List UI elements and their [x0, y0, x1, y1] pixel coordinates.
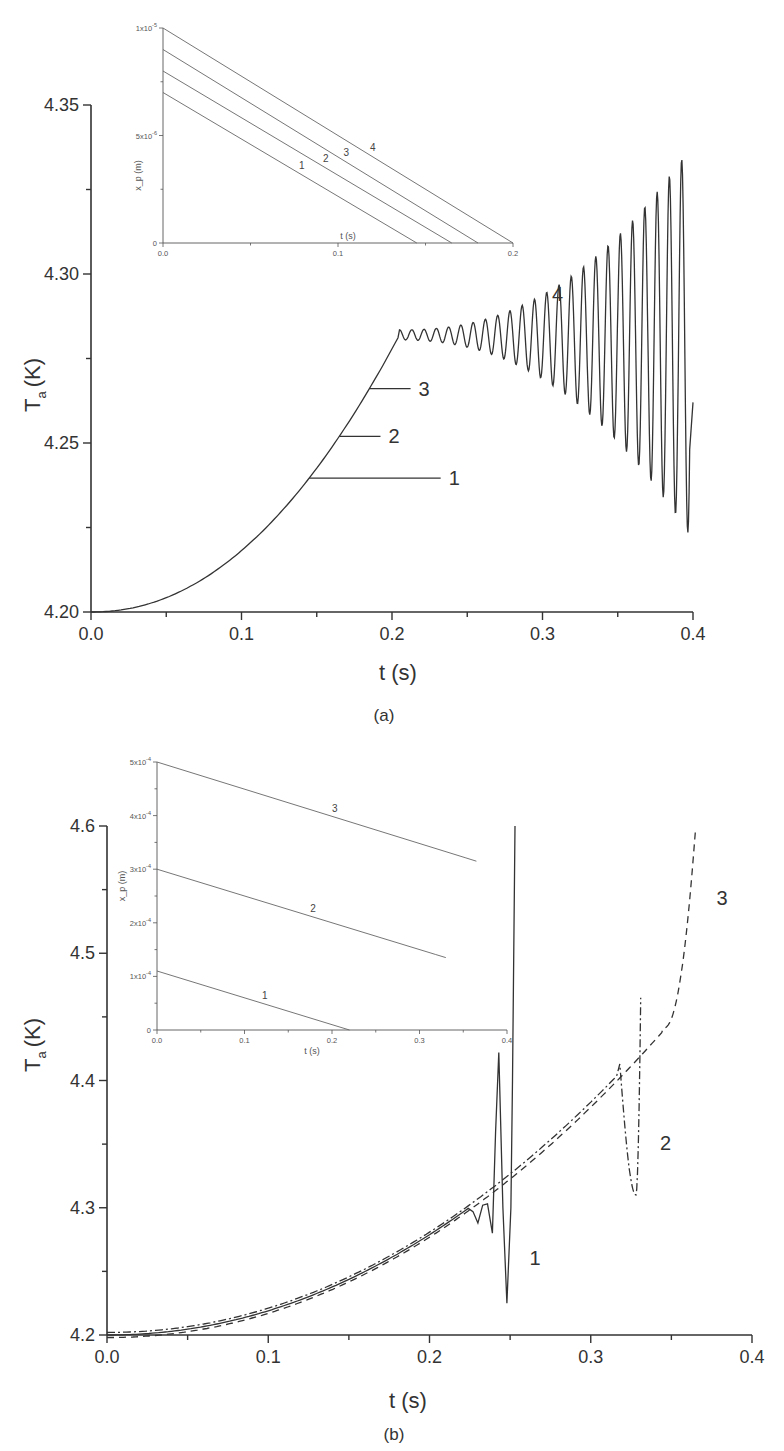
x-tick-label: 0.1 — [256, 1347, 281, 1367]
x-tick-label: 0.0 — [94, 1347, 119, 1367]
panel-b: 0.00.10.20.30.44.24.34.44.54.6 123 0.00.… — [20, 756, 765, 1444]
x-tick-label: 0.2 — [417, 1347, 442, 1367]
series-4-label: 4 — [552, 283, 563, 305]
inset-line-3-label: 3 — [332, 803, 338, 814]
inset-y-tick-label: 2x10-4 — [130, 917, 151, 928]
inset-y-tick-label: 3x10-4 — [130, 863, 151, 874]
inset-x-tick-label: 0.0 — [158, 249, 168, 258]
y-label-main: T — [20, 1059, 45, 1072]
y-tick-label: 4.30 — [44, 264, 79, 284]
y-label-unit: (K) — [20, 1018, 45, 1047]
panel-a-axes: 0.00.10.20.30.44.204.254.304.35 — [44, 95, 706, 644]
y-tick-label: 4.3 — [70, 1198, 95, 1218]
inset-y-tick-exponent: -4 — [146, 756, 151, 762]
inset-x-tick-label: 0.4 — [502, 1036, 512, 1045]
x-tick-label: 0.3 — [578, 1347, 603, 1367]
y-tick-label: 4.5 — [70, 943, 95, 963]
series-3-label: 3 — [717, 887, 728, 909]
inset-x-tick-label: 0.2 — [327, 1036, 337, 1045]
y-tick-label: 4.4 — [70, 1071, 95, 1091]
panel-a-caption: (a) — [374, 706, 395, 725]
inset-y-tick-label: 5x10-6 — [136, 130, 157, 141]
x-tick-label: 0.4 — [680, 624, 705, 644]
inset-line-2-label: 2 — [310, 903, 316, 914]
inset-y-tick-exponent: -4 — [146, 863, 151, 869]
y-tick-label: 4.20 — [44, 602, 79, 622]
inset-line-1 — [163, 93, 417, 244]
figure: 0.00.10.20.30.44.204.254.304.35 1234 0.0… — [0, 0, 784, 1451]
inset-x-axis-label: t (s) — [304, 1046, 320, 1056]
inset-x-axis-label: t (s) — [340, 231, 356, 241]
x-tick-label: 0.3 — [530, 624, 555, 644]
inset-line-3-label: 3 — [343, 147, 349, 158]
y-tick-label: 4.35 — [44, 95, 79, 115]
y-label-main: T — [20, 399, 45, 412]
panel-a-inset: 0.00.10.205x10-61x10-5x_p (m)t (s)1234 — [133, 22, 518, 258]
y-label-unit: (K) — [20, 358, 45, 387]
panel-a-x-axis-label: t (s) — [379, 660, 417, 685]
series-3-label: 3 — [419, 378, 430, 400]
series-2-label: 2 — [388, 425, 399, 447]
inset-y-tick-exponent: -4 — [146, 810, 151, 816]
inset-line-1 — [157, 971, 350, 1030]
series-2-label: 2 — [660, 1132, 671, 1154]
x-tick-label: 0.0 — [78, 624, 103, 644]
y-label-sub: a — [34, 1051, 49, 1059]
inset-line-3 — [163, 50, 478, 244]
y-label-sub: a — [34, 391, 49, 399]
inset-line-4-label: 4 — [370, 142, 376, 153]
inset-y-tick-label: 5x10-4 — [130, 756, 151, 767]
inset-y-tick-label: 1x10-5 — [136, 22, 157, 33]
series-1-label: 1 — [529, 1247, 540, 1269]
y-tick-label: 4.6 — [70, 816, 95, 836]
inset-line-2 — [157, 869, 446, 957]
svg-text:Ta(K): Ta(K) — [20, 1018, 49, 1072]
inset-line-1-label: 1 — [299, 160, 305, 171]
series-2-curve — [107, 998, 641, 1333]
inset-y-axis-label: x_p (m) — [117, 871, 127, 902]
y-tick-label: 4.25 — [44, 433, 79, 453]
inset-y-tick-exponent: -6 — [152, 130, 157, 136]
inset-x-tick-label: 0.2 — [508, 249, 518, 258]
inset-x-tick-label: 0.0 — [152, 1036, 162, 1045]
inset-y-tick-label: 1x10-4 — [130, 970, 151, 981]
inset-line-2 — [163, 71, 452, 243]
panel-b-x-axis-label: t (s) — [389, 1388, 427, 1413]
panel-b-y-axis-label: Ta(K) — [20, 1018, 49, 1072]
x-tick-label: 0.4 — [739, 1347, 764, 1367]
series-3-curve — [107, 829, 696, 1338]
panel-b-caption: (b) — [384, 1425, 405, 1444]
inset-y-tick-exponent: -4 — [146, 917, 151, 923]
panel-b-axes: 0.00.10.20.30.44.24.34.44.54.6 — [70, 816, 765, 1367]
series-1-label: 1 — [449, 467, 460, 489]
inset-x-tick-label: 0.1 — [239, 1036, 249, 1045]
inset-y-tick-label: 0 — [147, 1026, 151, 1035]
inset-y-tick-label: 4x10-4 — [130, 810, 151, 821]
panel-b-curves: 123 — [107, 826, 728, 1338]
inset-y-axis-label: x_p (m) — [133, 160, 143, 191]
svg-text:Ta(K): Ta(K) — [20, 358, 49, 412]
y-tick-label: 4.2 — [70, 1325, 95, 1345]
panel-a: 0.00.10.20.30.44.204.254.304.35 1234 0.0… — [20, 22, 706, 725]
x-tick-label: 0.1 — [229, 624, 254, 644]
inset-y-tick-exponent: -4 — [146, 970, 151, 976]
inset-line-3 — [157, 762, 476, 861]
inset-y-tick-exponent: -5 — [152, 22, 157, 28]
panel-b-inset: 0.00.10.20.30.401x10-42x10-43x10-44x10-4… — [117, 756, 512, 1056]
panel-a-y-axis-label: Ta(K) — [20, 358, 49, 412]
x-tick-label: 0.2 — [379, 624, 404, 644]
inset-x-tick-label: 0.1 — [333, 249, 343, 258]
inset-x-tick-label: 0.3 — [414, 1036, 424, 1045]
inset-line-4 — [163, 28, 513, 243]
inset-line-1-label: 1 — [262, 990, 268, 1001]
inset-line-2-label: 2 — [323, 153, 329, 164]
inset-y-tick-label: 0 — [153, 239, 157, 248]
